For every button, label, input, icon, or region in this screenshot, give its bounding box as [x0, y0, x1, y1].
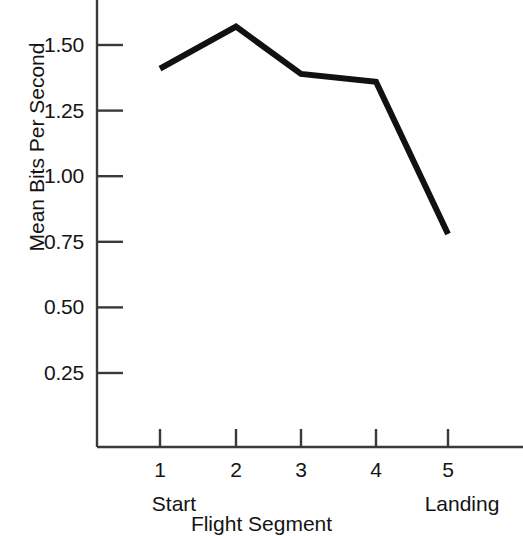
y-axis-tick-label-text: 0.25: [22, 362, 84, 383]
x-axis-category-label: Landing: [392, 493, 523, 514]
x-axis-title: Flight Segment: [0, 512, 523, 536]
y-axis-tick-label-text: 0.50: [22, 296, 84, 317]
x-axis-tick-label: 4: [356, 459, 396, 480]
x-axis-tick-label: 3: [281, 459, 321, 480]
y-axis-ticks: [97, 45, 123, 373]
x-axis-category-label: Start: [104, 493, 244, 514]
data-series-line: [160, 27, 448, 234]
x-axis-tick-label: 5: [428, 459, 468, 480]
y-axis-title: Mean Bits Per Second: [25, 22, 49, 272]
x-axis-tick-label: 2: [216, 459, 256, 480]
x-axis-tick-label: 1: [140, 459, 180, 480]
x-axis-ticks: [160, 429, 448, 447]
